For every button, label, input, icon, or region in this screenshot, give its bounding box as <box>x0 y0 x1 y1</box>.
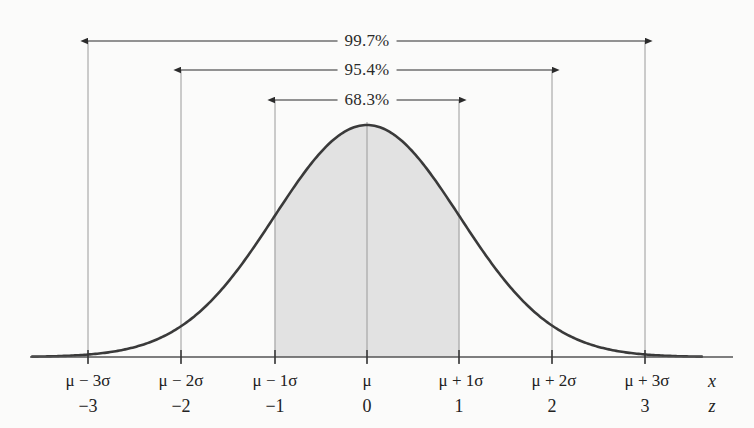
xtick-label-minus1sigma: μ − 1σ <box>253 371 298 391</box>
ztick-label-minus1: −1 <box>265 396 284 417</box>
ztick-label-plus2: 2 <box>548 396 557 417</box>
percent-label-997: 99.7% <box>338 31 397 51</box>
percent-label-683: 68.3% <box>338 90 397 110</box>
xtick-label-plus3sigma: μ + 3σ <box>625 371 670 391</box>
xtick-label-plus2sigma: μ + 2σ <box>532 371 577 391</box>
xtick-label-plus1sigma: μ + 1σ <box>439 371 484 391</box>
xtick-label-minus2sigma: μ − 2σ <box>159 371 204 391</box>
axis-name-x: x <box>708 371 716 392</box>
xtick-label-mean: μ <box>362 371 371 391</box>
percent-label-954: 95.4% <box>338 60 397 80</box>
axis-name-z: z <box>708 396 715 417</box>
ztick-label-minus3: −3 <box>78 396 97 417</box>
ztick-label-plus3: 3 <box>641 396 650 417</box>
normal-distribution-figure: 99.7% 95.4% 68.3% μ − 3σ μ − 2σ μ − 1σ μ… <box>0 0 754 428</box>
ztick-label-plus1: 1 <box>455 396 464 417</box>
ztick-label-minus2: −2 <box>171 396 190 417</box>
xtick-label-minus3sigma: μ − 3σ <box>66 371 111 391</box>
ztick-label-zero: 0 <box>363 396 372 417</box>
